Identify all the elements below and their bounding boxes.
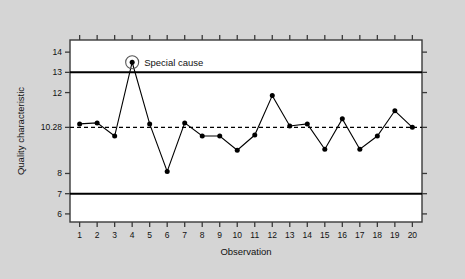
x-tick-label: 16 [338, 230, 348, 240]
x-tick-label: 14 [303, 230, 313, 240]
plot-area [70, 40, 422, 222]
data-point [410, 125, 415, 130]
y-tick-label: 14 [53, 47, 63, 57]
x-tick-label: 11 [250, 230, 259, 240]
y-tick-label: 7 [57, 189, 62, 199]
x-tick-label: 1 [77, 230, 82, 240]
y-tick-label: 12 [53, 88, 63, 98]
data-point [252, 133, 257, 138]
y-tick-label: 10.28 [41, 122, 63, 132]
control-chart: 14131210.28876 1234567891011121314151617… [0, 0, 465, 279]
x-tick-label: 19 [390, 230, 400, 240]
data-point [77, 121, 82, 126]
data-point [130, 60, 135, 65]
x-tick-label: 12 [268, 230, 278, 240]
special-cause-label: Special cause [144, 57, 203, 68]
x-tick-label: 3 [112, 230, 117, 240]
data-point [392, 108, 397, 113]
x-axis-title: Observation [220, 246, 271, 257]
data-point [305, 121, 310, 126]
data-point [217, 134, 222, 139]
chart-svg: 14131210.28876 1234567891011121314151617… [0, 0, 465, 279]
y-tick-label: 13 [53, 67, 63, 77]
x-tick-label: 8 [200, 230, 205, 240]
x-tick-label: 15 [320, 230, 330, 240]
data-point [147, 121, 152, 126]
data-point [270, 93, 275, 98]
data-point [200, 134, 205, 139]
data-point [357, 147, 362, 152]
data-point [95, 120, 100, 125]
x-tick-label: 6 [165, 230, 170, 240]
y-tick-label: 8 [57, 168, 62, 178]
x-tick-label: 17 [355, 230, 365, 240]
data-point [375, 134, 380, 139]
y-axis-title: Quality characteristic [15, 87, 26, 175]
data-point [322, 147, 327, 152]
x-tick-label: 18 [373, 230, 383, 240]
x-tick-label: 7 [182, 230, 187, 240]
data-point [287, 123, 292, 128]
x-tick-label: 5 [147, 230, 152, 240]
x-tick-label: 4 [130, 230, 135, 240]
x-tick-label: 9 [217, 230, 222, 240]
x-tick-label: 2 [95, 230, 100, 240]
x-tick-label: 20 [408, 230, 418, 240]
x-tick-label: 10 [233, 230, 243, 240]
y-tick-label: 6 [57, 209, 62, 219]
data-point [165, 169, 170, 174]
data-point [182, 120, 187, 125]
x-tick-label: 13 [285, 230, 295, 240]
data-point [235, 148, 240, 153]
data-point [112, 134, 117, 139]
data-point [340, 116, 345, 121]
